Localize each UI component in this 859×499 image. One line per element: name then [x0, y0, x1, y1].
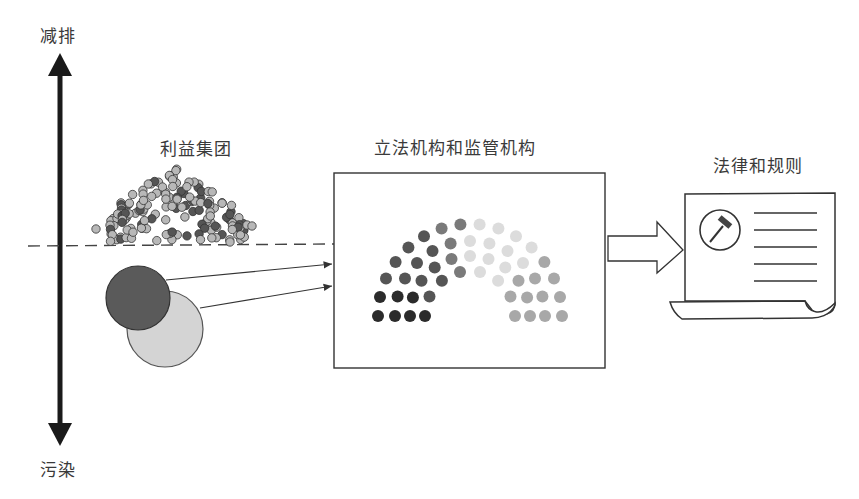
dark-circle	[106, 266, 170, 330]
law-document-icon	[670, 193, 835, 319]
laws-label: 法律和规则	[713, 152, 803, 177]
diagram-canvas	[0, 0, 859, 499]
gavel-icon	[700, 210, 740, 250]
connector-arrow-lower	[200, 286, 332, 308]
axis-top-label: 减排	[40, 22, 76, 47]
vertical-axis-arrow	[48, 53, 72, 446]
interest-group-circles	[106, 266, 203, 367]
interest-groups-label: 利益集团	[160, 135, 232, 160]
dashed-threshold-line	[28, 244, 334, 246]
interest-group-scatter	[92, 165, 256, 246]
axis-bottom-label: 污染	[40, 456, 76, 481]
legislature-box	[334, 173, 605, 368]
legislature-label: 立法机构和监管机构	[374, 134, 536, 159]
connector-arrow-upper	[166, 264, 332, 280]
output-block-arrow	[608, 222, 683, 273]
